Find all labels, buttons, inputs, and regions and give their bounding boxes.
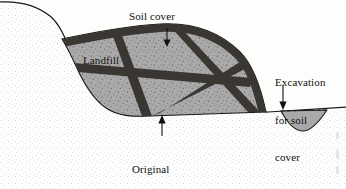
label-excavation-for-soil-cover: Excavation for soil cover [275, 51, 325, 189]
scan-artifact [336, 150, 339, 159]
label-landfill: Landfill [83, 54, 119, 67]
landfill-cross-section-figure: Soil cover Landfill Excavation for soil … [0, 0, 346, 189]
label-excavation-line-2: for soil [275, 114, 325, 127]
scan-artifact [336, 166, 339, 174]
scan-artifact [336, 132, 339, 139]
label-soil-cover: Soil cover [129, 10, 175, 23]
label-original-ground-surface: Original ground surface [132, 138, 169, 189]
label-excavation-line-1: Excavation [275, 76, 325, 89]
label-excavation-line-3: cover [275, 151, 325, 164]
label-original-line-1: Original [132, 163, 169, 176]
